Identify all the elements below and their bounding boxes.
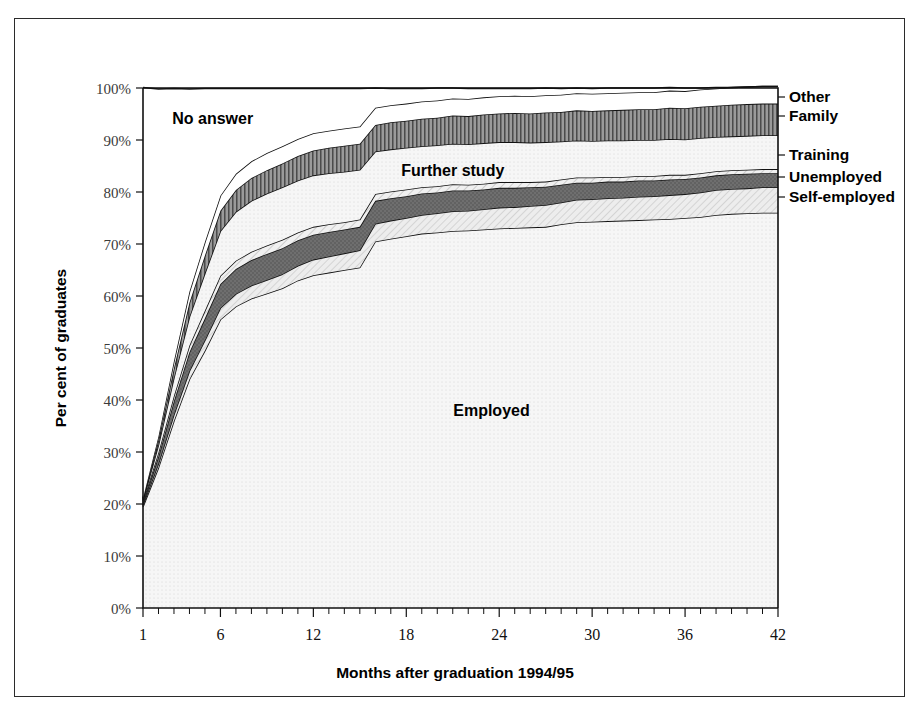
x-tick-label: 42 [770,626,786,643]
y-tick-label: 50% [104,341,132,357]
y-tick-label: 70% [104,237,132,253]
y-tick-label: 30% [104,445,132,461]
legend-label: Self-employed [789,188,895,205]
legend-label: Training [789,146,849,163]
y-axis-title: Per cent of graduates [52,269,69,428]
chart-canvas: 0%10%20%30%40%50%60%70%80%90%100%1612182… [0,0,923,713]
annotation-label-no-answer: No answer [172,110,253,127]
x-tick-label: 18 [398,626,414,643]
legend-group: OtherFamilyTrainingUnemployedSelf-employ… [778,88,895,205]
x-axis-title: Months after graduation 1994/95 [336,664,574,681]
y-tick-label: 100% [96,81,131,97]
x-tick-label: 12 [305,626,321,643]
legend-item-training: Training [778,146,849,163]
y-tick-label: 40% [104,393,132,409]
annotation-label-further-study: Further study [401,162,504,179]
y-tick-label: 0% [111,601,131,617]
x-tick-label: 30 [584,626,600,643]
legend-label: Family [789,107,838,124]
y-tick-label: 10% [104,549,132,565]
legend-item-other: Other [778,88,830,105]
x-tick-label: 1 [139,626,147,643]
y-tick-label: 60% [104,289,132,305]
x-tick-label: 36 [677,626,693,643]
x-tick-label: 6 [216,626,224,643]
x-tick-label: 24 [491,626,507,643]
legend-item-unemployed: Unemployed [778,168,882,185]
y-tick-label: 90% [104,133,132,149]
stacked-area-chart: 0%10%20%30%40%50%60%70%80%90%100%1612182… [0,0,923,713]
legend-item-self-employed: Self-employed [778,188,895,205]
y-tick-label: 80% [104,185,132,201]
legend-item-family: Family [778,107,838,124]
legend-label: Other [789,88,830,105]
legend-label: Unemployed [789,168,882,185]
chart-annotation: Employed [453,402,529,419]
chart-annotation: Further study [401,162,504,179]
chart-annotation: No answer [172,110,253,127]
annotation-label-employed: Employed [453,402,529,419]
y-tick-label: 20% [104,497,132,513]
